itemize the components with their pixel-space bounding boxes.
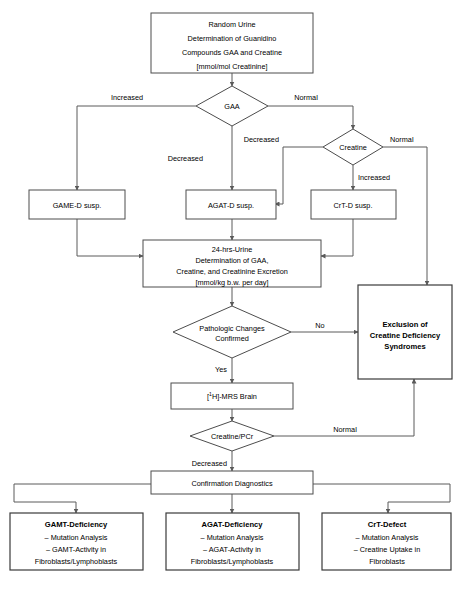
node-random-urine-line1: Random Urine <box>208 20 255 29</box>
node-crt-defect-line1: – Mutation Analysis <box>356 533 419 542</box>
node-exclusion-line1: Exclusion of <box>382 320 428 329</box>
edge-label-gaa-normal: Normal <box>294 93 318 102</box>
node-game-d-susp[interactable]: GAME-D susp. <box>29 190 125 219</box>
node-random-urine[interactable]: Random Urine Determination of Guanidino … <box>151 13 313 73</box>
edge-label-pathologic-no: No <box>315 321 324 330</box>
edge-gaa-increased <box>77 106 196 190</box>
node-agat-line2: – AGAT-Activity in <box>203 545 261 554</box>
node-gaa-label: GAA <box>224 102 240 111</box>
node-crt-defect[interactable]: CrT-Defect – Mutation Analysis – Creatin… <box>322 513 451 570</box>
node-agat-line1: – Mutation Analysis <box>201 533 264 542</box>
node-gamt-deficiency[interactable]: GAMT-Deficiency – Mutation Analysis – GA… <box>10 513 143 570</box>
node-gamt-title: GAMT-Deficiency <box>45 520 108 529</box>
node-crt-defect-line2: – Creatine Uptake in <box>354 545 421 554</box>
node-24hrs-urine[interactable]: 24-hrs-Urine Determination of GAA, Creat… <box>143 240 321 287</box>
node-exclusion[interactable]: Exclusion of Creatine Deficiency Syndrom… <box>358 285 452 379</box>
edge-crt-d-to-urine24 <box>321 219 353 256</box>
node-random-urine-line4: [mmol/mol Creatinine] <box>197 62 268 71</box>
edge-confirmation-to-crt <box>313 484 450 513</box>
edge-label-creatine-increased: Increased <box>358 173 390 182</box>
node-creatine-label: Creatine <box>339 143 367 152</box>
node-gaa-decision[interactable]: GAA <box>196 86 268 126</box>
edge-label-creatine-normal: Normal <box>390 135 414 144</box>
node-pathologic-line1: Pathologic Changes <box>199 324 265 333</box>
node-agat-d-label: AGAT-D susp. <box>208 201 254 210</box>
edge-label-pcr-normal: Normal <box>333 425 357 434</box>
node-crt-d-label: CrT-D susp. <box>334 201 373 210</box>
node-mrs-brain[interactable]: [1H]-MRS Brain <box>171 383 293 409</box>
node-24hrs-line3: Creatine, and Creatinine Excretion <box>176 267 288 276</box>
node-confirmation-diagnostics[interactable]: Confirmation Diagnostics <box>151 471 313 494</box>
node-mrs-label: [1H]-MRS Brain <box>207 391 257 401</box>
edge-label-creatine-decreased: Decreased <box>244 135 279 144</box>
node-24hrs-line2: Determination of GAA, <box>195 256 268 265</box>
node-agat-line3: Fibroblasts/Lymphoblasts <box>191 557 274 566</box>
edge-label-gaa-decreased: Decreased <box>168 154 203 163</box>
node-creatine-pcr-decision[interactable]: Creatine/PCr <box>190 421 274 451</box>
edge-gaa-normal <box>268 106 353 129</box>
flowchart-svg: Random Urine Determination of Guanidino … <box>0 0 464 589</box>
node-gamt-line1: – Mutation Analysis <box>45 533 108 542</box>
node-random-urine-line3: Compounds GAA and Creatine <box>182 48 282 57</box>
node-creatine-pcr-label: Creatine/PCr <box>211 432 254 441</box>
edge-label-pathologic-yes: Yes <box>215 365 227 374</box>
node-24hrs-line4: [mmol/kg b.w. per day] <box>196 278 269 287</box>
node-crt-defect-title: CrT-Defect <box>368 520 407 529</box>
edge-label-gaa-increased: Increased <box>111 93 143 102</box>
edge-label-pcr-decreased: Decreased <box>192 459 227 468</box>
node-crt-defect-line3: Fibroblasts <box>369 557 405 566</box>
node-gamt-line2: – GAMT-Activity in <box>46 545 106 554</box>
node-creatine-decision[interactable]: Creatine <box>323 129 383 165</box>
node-agat-title: AGAT-Deficiency <box>201 520 263 529</box>
node-confirmation-label: Confirmation Diagnostics <box>191 479 272 488</box>
node-pathologic-line2: Confirmed <box>215 334 249 343</box>
node-24hrs-line1: 24-hrs-Urine <box>212 245 253 254</box>
node-exclusion-line3: Syndromes <box>384 342 425 351</box>
node-agat-d-susp[interactable]: AGAT-D susp. <box>186 190 276 219</box>
edge-confirmation-to-gamt <box>14 484 151 513</box>
node-random-urine-line2: Determination of Guanidino <box>188 34 277 43</box>
edge-game-d-to-urine24 <box>77 219 143 256</box>
flowchart-canvas: Random Urine Determination of Guanidino … <box>0 0 464 589</box>
node-gamt-line3: Fibroblasts/Lymphoblasts <box>35 557 118 566</box>
node-game-d-label: GAME-D susp. <box>53 201 102 210</box>
node-agat-deficiency[interactable]: AGAT-Deficiency – Mutation Analysis – AG… <box>166 513 299 570</box>
node-crt-d-susp[interactable]: CrT-D susp. <box>311 190 396 219</box>
node-pathologic-decision[interactable]: Pathologic Changes Confirmed <box>173 306 291 358</box>
node-exclusion-line2: Creatine Deficiency <box>370 331 441 340</box>
